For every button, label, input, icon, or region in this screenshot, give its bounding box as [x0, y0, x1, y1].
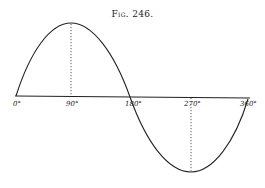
tick-label-180: 180°	[125, 100, 142, 108]
sine-curve-negative-half	[130, 97, 248, 172]
sine-curve-positive-half	[16, 23, 130, 97]
x-axis	[15, 96, 250, 98]
tick-label-360: 360°	[240, 100, 257, 108]
tick-label-0: 0°	[13, 100, 21, 108]
tick-label-270: 270°	[184, 100, 201, 108]
tick-label-90: 90°	[66, 100, 78, 108]
sine-wave-diagram	[0, 0, 265, 188]
